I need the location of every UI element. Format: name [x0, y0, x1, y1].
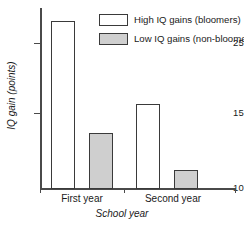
x-axis-title: School year [0, 208, 244, 219]
x-tick-right-edge [235, 188, 236, 193]
y-axis-title: IQ gain (points) [6, 36, 17, 156]
legend-swatch-open-icon [99, 14, 128, 26]
legend: High IQ gains (bloomers) Low IQ gains (n… [99, 12, 244, 50]
chart-figure: 25 15 10 First year Second year School y… [0, 0, 244, 226]
bar-second-year-non-bloomers [174, 170, 198, 189]
legend-item-bloomers: High IQ gains (bloomers) [99, 12, 244, 27]
legend-label-bloomers: High IQ gains (bloomers) [134, 15, 241, 25]
y-tick-mark-15 [34, 113, 40, 114]
bar-second-year-bloomers [136, 104, 160, 189]
legend-swatch-filled-icon [99, 33, 128, 45]
x-category-label-second-year: Second year [126, 193, 220, 204]
y-tick-label-15: 15 [218, 108, 244, 118]
legend-label-non-bloomers: Low IQ gains (non-bloomers) [134, 34, 244, 44]
bar-first-year-non-bloomers [89, 133, 113, 189]
legend-item-non-bloomers: Low IQ gains (non-bloomers) [99, 31, 244, 46]
y-axis-line [40, 8, 42, 189]
x-category-label-first-year: First year [42, 193, 122, 204]
bar-first-year-bloomers [51, 21, 75, 189]
y-tick-label-10: 10 [218, 183, 244, 193]
y-tick-mark-25 [34, 43, 40, 44]
